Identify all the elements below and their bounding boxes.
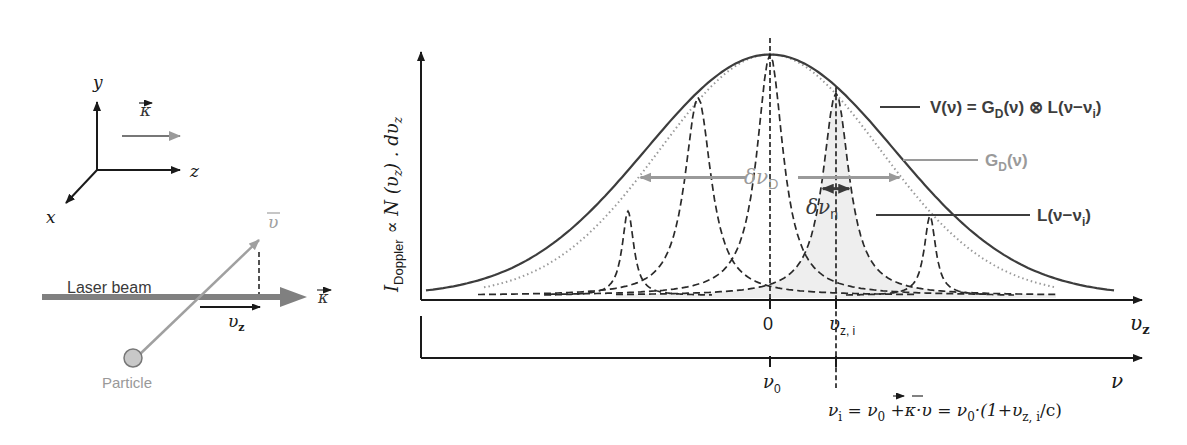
x-axis-arrow: [66, 170, 97, 203]
nu-axis-ticks: ν0: [763, 356, 836, 396]
particle-icon: [124, 349, 142, 367]
doppler-shift-formula: νi = ν0 +κ·υ = ν0·(1+υz, i/c): [828, 400, 1062, 424]
vz-label: υz: [228, 311, 245, 334]
nu-axis-label: ν: [1111, 369, 1123, 393]
laser-beam-label: Laser beam: [67, 279, 152, 296]
beam-kappa-label: κ: [317, 288, 329, 307]
laser-particle-scheme: Laser beam κ υ υz Particle: [42, 212, 331, 391]
doppler-diagram: y z x κ Laser beam κ υ υz Particle: [0, 0, 1187, 445]
z-axis-label: z: [189, 161, 200, 181]
coordinate-system: y z x κ: [46, 72, 200, 227]
doppler-width-label: δνD: [744, 165, 778, 192]
velocity-label: υ: [268, 212, 278, 232]
vz-axis-ticks: 0υz, i: [763, 298, 855, 338]
doppler-profile-chart: 0υz, i ν0 υz ν IDoppler ∝ N (υz) . dυz δ…: [381, 38, 1150, 424]
y-axis-label: y: [92, 72, 103, 92]
x-axis-label: x: [46, 207, 56, 227]
lorentzian-curve-0: [544, 211, 712, 295]
laser-beam-arrowhead: [280, 287, 307, 307]
particle-label: Particle: [102, 374, 152, 391]
nuTicks-tick-label-0: ν0: [763, 371, 781, 396]
vz-axis-label: υz: [1130, 311, 1150, 337]
gauss-label: GD(ν): [985, 151, 1028, 174]
y-axis-label: IDoppler ∝ N (υz) . dυz: [381, 116, 406, 293]
voigt-label: V(ν) = GD(ν) ⊗ L(ν−νi): [930, 98, 1102, 121]
lorentz-label: L(ν−νi): [1037, 206, 1091, 229]
vzTicks-tick-label-0: 0: [763, 314, 773, 334]
vzTicks-tick-label-1: υz, i: [829, 313, 855, 338]
